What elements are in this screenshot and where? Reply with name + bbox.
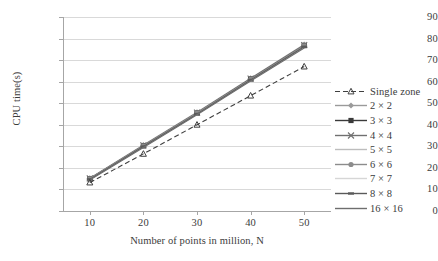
y-tick-label: 70 — [386, 55, 438, 65]
legend-label: 7 × 7 — [369, 173, 392, 184]
legend-item[interactable]: 4 × 4 — [333, 128, 438, 143]
x-tick-label: 40 — [231, 217, 271, 228]
legend-item[interactable]: 16 × 16 — [333, 201, 438, 216]
legend-label: 5 × 5 — [369, 144, 392, 155]
series-marker — [301, 63, 307, 69]
legend-swatch — [333, 129, 369, 142]
y-tick-label: 80 — [386, 34, 438, 44]
legend-label: 16 × 16 — [369, 203, 403, 214]
legend-item[interactable]: Single zone — [333, 84, 438, 99]
legend-label: 2 × 2 — [369, 100, 392, 111]
legend: Single zone2 × 23 × 34 × 45 × 56 × 67 × … — [333, 84, 438, 215]
series-lines — [63, 17, 331, 212]
legend-item[interactable]: 3 × 3 — [333, 113, 438, 128]
legend-label: 8 × 8 — [369, 188, 392, 199]
legend-label: 3 × 3 — [369, 115, 392, 126]
x-tick-label: 30 — [177, 217, 217, 228]
legend-swatch — [333, 99, 369, 112]
legend-swatch — [333, 114, 369, 127]
chart-figure: 0102030405060708090 1020304050 CPU time(… — [0, 0, 438, 261]
series-line — [90, 67, 304, 183]
legend-label: Single zone — [369, 86, 420, 97]
legend-item[interactable]: 6 × 6 — [333, 157, 438, 172]
x-axis-title: Number of points in million, N — [63, 235, 331, 246]
x-tick-label: 50 — [284, 217, 324, 228]
x-tick-label: 10 — [70, 217, 110, 228]
y-axis-title: CPU time(s) — [11, 39, 22, 159]
legend-item[interactable]: 8 × 8 — [333, 186, 438, 201]
legend-item[interactable]: 2 × 2 — [333, 99, 438, 114]
legend-swatch — [333, 187, 369, 200]
series-marker — [301, 46, 307, 48]
legend-swatch — [333, 172, 369, 185]
series-marker — [248, 92, 254, 98]
legend-label: 4 × 4 — [369, 130, 392, 141]
x-tick-label: 20 — [123, 217, 163, 228]
legend-item[interactable]: 7 × 7 — [333, 172, 438, 187]
legend-swatch — [333, 158, 369, 171]
legend-label: 6 × 6 — [369, 159, 392, 170]
y-tick-label: 90 — [386, 12, 438, 22]
legend-swatch — [333, 202, 369, 215]
legend-swatch — [333, 85, 369, 98]
legend-swatch — [333, 143, 369, 156]
legend-item[interactable]: 5 × 5 — [333, 142, 438, 157]
